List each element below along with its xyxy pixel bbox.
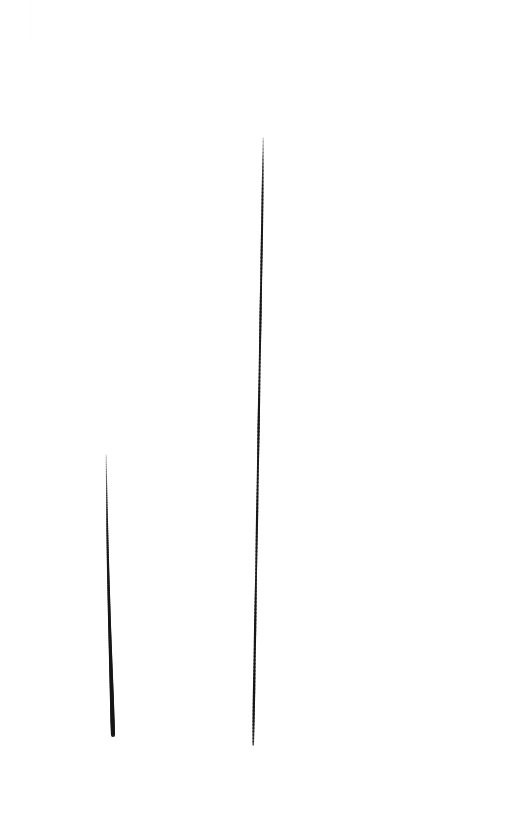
drawing-canvas: Two Vertical Ink Strokes Short left stro…: [0, 0, 506, 820]
ink-stroke-illustration: [0, 0, 506, 820]
